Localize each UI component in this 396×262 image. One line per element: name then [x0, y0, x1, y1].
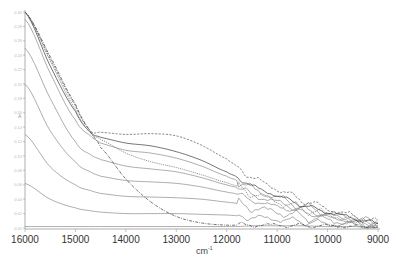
x-ticks: 160001500014000130001200011000100009000 [11, 229, 389, 245]
y-tick-label: 0.28 [14, 24, 23, 29]
spectrum-curve-s10 [25, 12, 378, 228]
spectrum-curve-s8 [25, 12, 378, 223]
spectrum-curve-s5 [25, 48, 378, 228]
spectrum-curve-s4 [25, 84, 378, 227]
y-tick-label: 0.06 [14, 182, 23, 187]
y-tick-label: 0.30 [14, 10, 23, 15]
spectrum-curve-s6 [25, 19, 378, 228]
x-tick-label: 15000 [62, 234, 90, 245]
x-tick-label: 14000 [112, 234, 140, 245]
spectrum-curve-s1 [25, 226, 378, 227]
x-axis-title-exponent: -1 [208, 245, 213, 251]
y-ticks: 0.000.020.040.060.080.100.120.140.160.18… [14, 10, 25, 231]
y-tick-label: 0.20 [14, 82, 23, 87]
plot-curves [25, 12, 378, 228]
x-tick-label: 9000 [367, 234, 390, 245]
y-tick-label: 0.24 [14, 53, 23, 58]
absorbance-spectrum-chart: 0.000.020.040.060.080.100.120.140.160.18… [0, 0, 396, 262]
x-tick-label: 13000 [162, 234, 190, 245]
x-tick-label: 10000 [314, 234, 342, 245]
y-tick-label: 0.02 [14, 211, 23, 216]
y-tick-label: 0.12 [14, 139, 23, 144]
y-tick-label: 0.26 [14, 38, 23, 43]
spectrum-curve-s7 [25, 12, 378, 224]
y-tick-label: 0.14 [14, 125, 23, 130]
spectrum-curve-s9 [25, 12, 378, 228]
y-tick-label: 0.22 [14, 67, 23, 72]
y-tick-label: 0.18 [14, 96, 23, 101]
x-tick-label: 16000 [11, 234, 39, 245]
y-tick-label: 0.04 [14, 197, 23, 202]
x-axis-title: cm-1 [196, 245, 213, 256]
y-axis: 0.000.020.040.060.080.100.120.140.160.18… [14, 10, 25, 231]
x-tick-label: 12000 [213, 234, 241, 245]
x-tick-label: 11000 [264, 234, 292, 245]
y-tick-label: 0.00 [14, 226, 23, 231]
x-axis: 160001500014000130001200011000100009000 … [11, 229, 389, 256]
spectrum-curve-s2 [25, 183, 378, 228]
y-tick-label: 0.08 [14, 168, 23, 173]
x-axis-title-unit: cm [196, 246, 208, 256]
y-tick-label: 0.10 [14, 154, 23, 159]
